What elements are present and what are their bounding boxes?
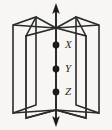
point-marker-z <box>53 89 60 96</box>
inner-left-page <box>26 28 56 118</box>
point-label-z: Z <box>65 86 71 97</box>
point-label-x: X <box>65 39 72 50</box>
outer-right-page <box>76 17 99 113</box>
half-planes-diagram <box>0 0 112 130</box>
upper-right-back-edge <box>56 25 99 28</box>
upper-left-back-edge <box>13 25 56 28</box>
point-label-y: Y <box>65 63 71 74</box>
point-marker-x <box>53 42 60 49</box>
point-marker-y <box>53 66 60 73</box>
outer-left-page <box>13 17 36 113</box>
geometry-figure: X Y Z <box>0 0 112 130</box>
